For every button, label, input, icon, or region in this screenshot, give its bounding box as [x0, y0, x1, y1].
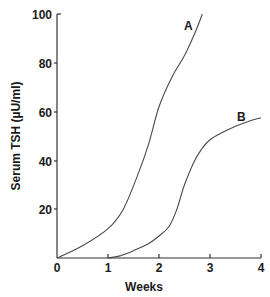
x-axis-title: Weeks	[125, 280, 163, 294]
x-tick-label: 1	[105, 261, 112, 275]
x-tick-label: 2	[156, 261, 163, 275]
y-axis-title: Serum TSH (µU/ml)	[9, 82, 23, 191]
x-tick-label: 4	[258, 261, 265, 275]
y-tick-labels: 100 80 60 40 20	[32, 8, 52, 217]
chart: 100 80 60 40 20 Serum TSH (µU/ml) 0 1 2 …	[0, 0, 270, 297]
series-a-label: A	[184, 19, 193, 33]
series-b-label: B	[237, 110, 246, 124]
x-tick-label: 3	[207, 261, 214, 275]
x-axis	[57, 254, 261, 258]
x-tick-label: 0	[54, 261, 61, 275]
x-tick-labels: 0 1 2 3 4	[54, 261, 265, 275]
series-a-line	[57, 14, 202, 258]
y-tick-label: 20	[39, 203, 53, 217]
y-tick-label: 100	[32, 8, 52, 22]
y-axis	[54, 14, 61, 258]
y-tick-label: 40	[39, 155, 53, 169]
y-tick-label: 60	[39, 106, 53, 120]
series-b-line	[108, 118, 261, 258]
y-tick-label: 80	[39, 57, 53, 71]
